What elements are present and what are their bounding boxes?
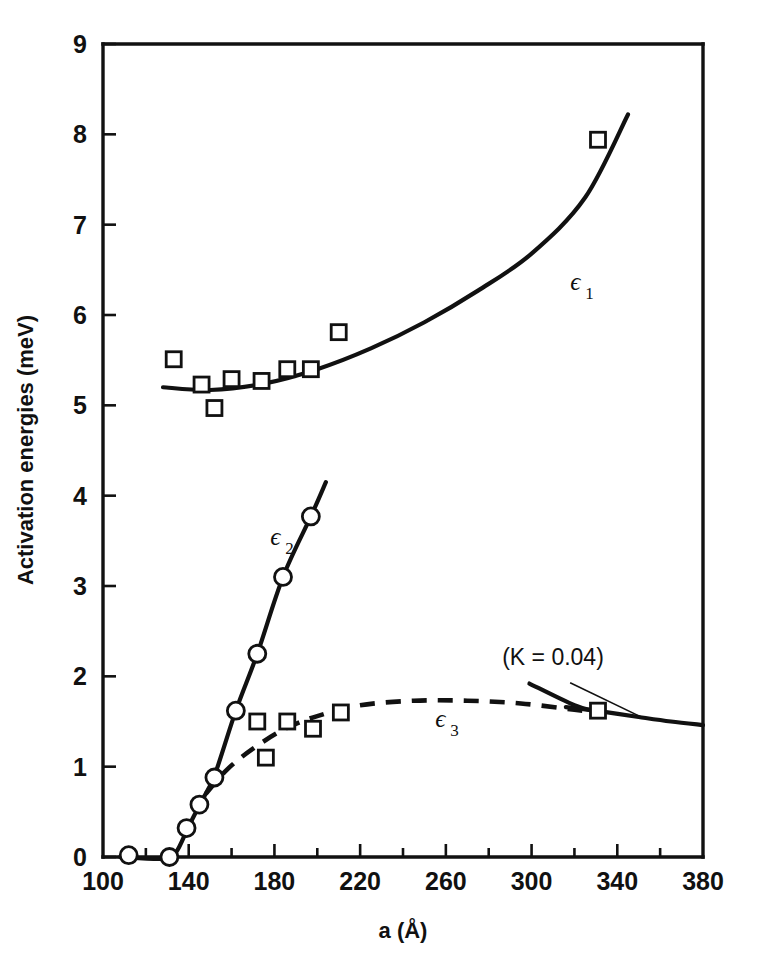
annotation-k-value: (K = 0.04) <box>502 644 604 670</box>
data-point-square <box>591 132 606 147</box>
y-tick-label: 8 <box>73 120 87 148</box>
data-point-square <box>254 373 269 388</box>
y-tick-label: 2 <box>73 662 87 690</box>
figure-container: 0123456789 100140180220260300340380 ϵ1ϵ2… <box>0 0 761 960</box>
data-point-circle <box>178 820 195 837</box>
x-tick-label: 260 <box>425 867 467 895</box>
data-point-circle <box>206 769 223 786</box>
y-axis-ticks <box>103 44 116 857</box>
data-point-circle <box>191 796 208 813</box>
data-point-circle <box>249 645 266 662</box>
x-tick-label: 380 <box>682 867 724 895</box>
series-curves <box>120 114 703 859</box>
x-axis-tick-labels: 100140180220260300340380 <box>82 867 724 895</box>
data-point-square <box>250 714 265 729</box>
series-label-sub-ε2: 2 <box>285 539 294 558</box>
series-label-ε3: ϵ <box>435 705 446 732</box>
data-point-square <box>333 705 348 720</box>
x-axis-title: a (Å) <box>379 917 428 943</box>
data-point-square <box>258 750 273 765</box>
data-point-square <box>331 325 346 340</box>
data-point-square <box>306 721 321 736</box>
y-tick-label: 1 <box>73 753 87 781</box>
data-point-square <box>194 377 209 392</box>
data-point-square <box>166 352 181 367</box>
data-point-circle <box>227 702 244 719</box>
y-axis-title: Activation energies (meV) <box>13 315 38 585</box>
data-point-circle <box>302 508 319 525</box>
y-tick-label: 5 <box>73 391 87 419</box>
series-label-sub-ε3: 3 <box>450 721 459 740</box>
data-point-square <box>224 372 239 387</box>
series-curve-ε1 <box>163 114 628 390</box>
series-curve-k-segment <box>529 684 595 712</box>
x-tick-label: 140 <box>168 867 210 895</box>
series-markers <box>120 132 605 865</box>
y-tick-label: 4 <box>73 482 87 510</box>
x-tick-label: 340 <box>596 867 638 895</box>
data-point-square <box>303 362 318 377</box>
data-point-circle <box>275 568 292 585</box>
x-tick-label: 220 <box>339 867 381 895</box>
x-tick-label: 100 <box>82 867 124 895</box>
y-tick-label: 7 <box>73 211 87 239</box>
data-point-circle <box>120 847 137 864</box>
y-tick-label: 3 <box>73 572 87 600</box>
y-tick-label: 9 <box>73 30 87 58</box>
y-axis-tick-labels: 0123456789 <box>73 30 87 871</box>
plot-frame <box>103 44 703 857</box>
series-label-ε1: ϵ <box>570 268 581 295</box>
data-point-square <box>591 703 606 718</box>
series-label-ε2: ϵ <box>270 523 281 550</box>
activation-energy-chart: 0123456789 100140180220260300340380 ϵ1ϵ2… <box>0 0 761 960</box>
x-tick-label: 300 <box>511 867 553 895</box>
data-point-square <box>207 401 222 416</box>
data-point-square <box>280 362 295 377</box>
y-tick-label: 6 <box>73 301 87 329</box>
series-curve-ε2 <box>120 482 326 859</box>
series-label-sub-ε1: 1 <box>585 284 594 303</box>
data-point-square <box>280 714 295 729</box>
x-tick-label: 180 <box>254 867 296 895</box>
data-point-circle <box>161 849 178 866</box>
